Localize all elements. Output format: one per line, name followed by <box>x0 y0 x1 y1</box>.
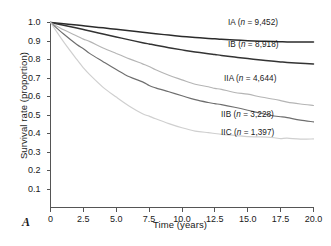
survival-curve-iib <box>51 23 314 122</box>
survival-curve-figure: Survival rate (proportion) Time (years) … <box>0 0 331 246</box>
curve-label-iic: IIC (n = 1,397) <box>221 128 274 137</box>
survival-curve-iia <box>51 23 314 106</box>
plot-canvas <box>0 0 331 246</box>
curve-label-ib: IB (n = 8,918) <box>228 40 279 49</box>
curve-label-iib: IIB (n = 3,228) <box>221 110 274 119</box>
curve-label-iia: IIA (n = 4,644) <box>224 74 276 83</box>
curve-label-ia: IA (n = 9,452) <box>228 18 278 27</box>
